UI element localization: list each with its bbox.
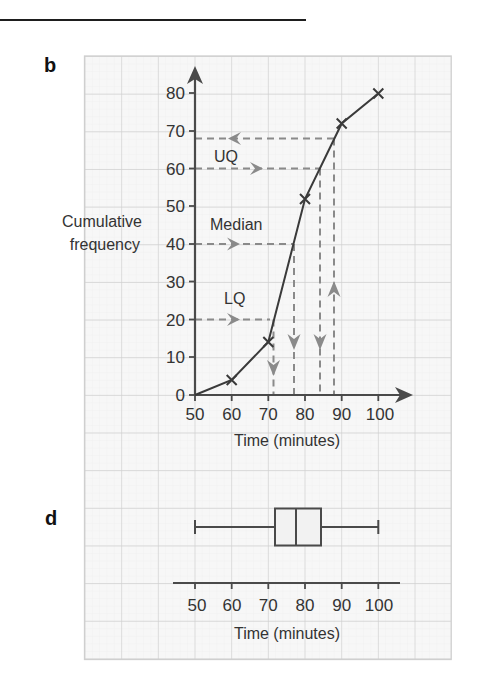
svg-text:100: 100 [366,405,394,424]
annotation-uq: UQ [214,148,238,165]
annotation-lq: LQ [224,290,245,307]
svg-text:60: 60 [166,160,185,179]
svg-text:90: 90 [332,596,351,615]
interquartile-box [275,509,321,546]
svg-text:90: 90 [332,405,351,424]
svg-text:10: 10 [166,348,185,367]
graph-paper: 0 10 20 30 40 50 60 70 80 50 60 70 80 90… [0,0,477,697]
svg-text:50: 50 [166,197,185,216]
svg-text:20: 20 [166,311,185,330]
svg-text:70: 70 [259,405,278,424]
annotation-median: Median [210,216,262,233]
svg-text:30: 30 [166,273,185,292]
y-tick-labels: 0 10 20 30 40 50 60 70 80 [166,84,185,405]
svg-text:70: 70 [166,122,185,141]
svg-text:50: 50 [188,596,207,615]
svg-text:80: 80 [166,84,185,103]
svg-text:0: 0 [176,386,185,405]
svg-text:80: 80 [296,405,315,424]
svg-text:100: 100 [365,596,393,615]
svg-text:60: 60 [222,405,241,424]
y-axis-label-line2: frequency [70,236,140,253]
box-x-axis-label: Time (minutes) [234,625,340,642]
svg-text:50: 50 [186,405,205,424]
x-axis-label: Time (minutes) [234,432,340,449]
svg-text:40: 40 [166,235,185,254]
svg-text:80: 80 [296,596,315,615]
svg-text:60: 60 [223,596,242,615]
svg-text:70: 70 [259,596,278,615]
y-axis-label-line1: Cumulative [62,213,142,230]
